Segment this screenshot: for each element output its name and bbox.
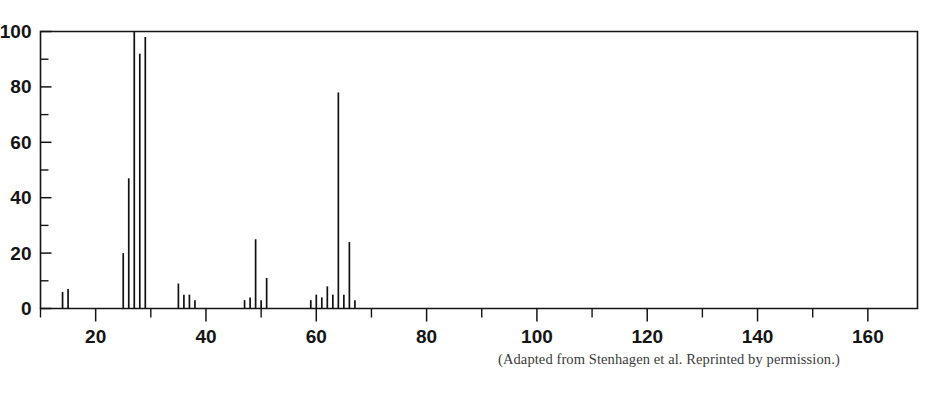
- plot-frame: [41, 32, 918, 309]
- x-tick-label: 20: [85, 326, 106, 347]
- y-tick-label: 80: [10, 76, 31, 97]
- mass-spectrum-figure: 020406080100 20406080100120140160 (Adapt…: [0, 0, 952, 396]
- y-axis-ticks: [41, 32, 52, 309]
- y-tick-label: 0: [21, 298, 32, 319]
- x-tick-label: 40: [195, 326, 216, 347]
- x-tick-label: 140: [742, 326, 774, 347]
- figure-caption: (Adapted from Stenhagen et al. Reprinted…: [498, 351, 938, 368]
- y-tick-label: 20: [10, 243, 31, 264]
- x-tick-label: 100: [521, 326, 553, 347]
- mass-spectrum-plot: 020406080100 20406080100120140160: [0, 0, 952, 396]
- x-axis-ticks: [41, 309, 868, 322]
- x-tick-label: 160: [852, 326, 884, 347]
- x-axis-tick-labels: 20406080100120140160: [85, 326, 884, 347]
- x-tick-label: 80: [416, 326, 437, 347]
- spectrum-peaks: [63, 32, 355, 309]
- y-axis-tick-labels: 020406080100: [0, 21, 32, 319]
- y-tick-label: 100: [0, 21, 32, 42]
- y-tick-label: 40: [10, 187, 31, 208]
- x-tick-label: 120: [631, 326, 663, 347]
- x-tick-label: 60: [306, 326, 327, 347]
- y-tick-label: 60: [10, 132, 31, 153]
